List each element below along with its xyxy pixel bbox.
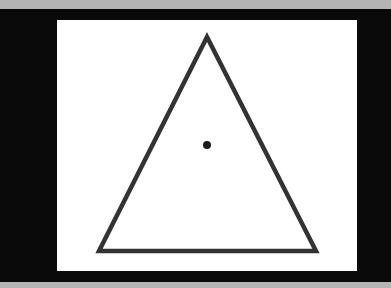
- diagram-canvas: [0, 0, 391, 288]
- center-dot: [203, 141, 211, 149]
